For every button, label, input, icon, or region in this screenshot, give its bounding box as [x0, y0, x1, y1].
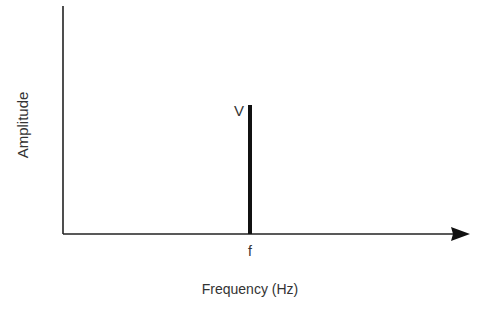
x-axis-arrowhead-icon — [451, 227, 470, 241]
amplitude-marker-label: V — [234, 102, 244, 119]
x-axis-label: Frequency (Hz) — [202, 281, 298, 297]
frequency-marker-label: f — [248, 243, 252, 259]
y-axis-label: Amplitude — [14, 92, 31, 159]
spectrum-diagram — [0, 0, 496, 316]
